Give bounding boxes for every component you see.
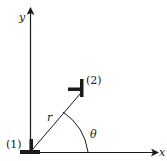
dislocation-2-label: (2) bbox=[86, 74, 102, 87]
distance-label: r bbox=[47, 111, 53, 124]
dislocation-2-symbol bbox=[68, 79, 84, 97]
dislocation-1-label: (1) bbox=[6, 138, 22, 151]
dislocation-1-symbol bbox=[20, 139, 40, 154]
angle-label: θ bbox=[90, 128, 97, 141]
y-axis-label: y bbox=[18, 11, 26, 24]
angle-arc bbox=[63, 112, 88, 152]
dislocation-diagram: y x (1) (2) r θ bbox=[0, 0, 167, 161]
distance-line-r bbox=[32, 94, 80, 150]
x-axis-label: x bbox=[159, 146, 166, 159]
